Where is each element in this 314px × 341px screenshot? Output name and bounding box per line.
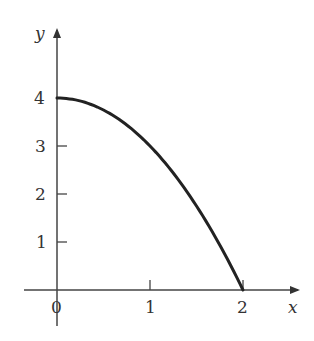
plot: 1 2 3 4 0 1 2 x y bbox=[0, 0, 314, 341]
x-tick-label-2: 2 bbox=[237, 297, 248, 317]
y-tick-label-1: 1 bbox=[36, 232, 47, 252]
y-tick-label-4: 4 bbox=[34, 88, 45, 108]
y-axis-label: y bbox=[34, 23, 45, 43]
x-tick-label-0: 0 bbox=[51, 297, 62, 317]
x-axis-label: x bbox=[288, 297, 298, 317]
x-ticks bbox=[150, 280, 243, 290]
y-tick-label-3: 3 bbox=[35, 136, 46, 156]
y-ticks bbox=[57, 98, 67, 242]
curve bbox=[57, 98, 243, 290]
x-tick-label-1: 1 bbox=[145, 297, 156, 317]
y-tick-label-2: 2 bbox=[35, 184, 46, 204]
